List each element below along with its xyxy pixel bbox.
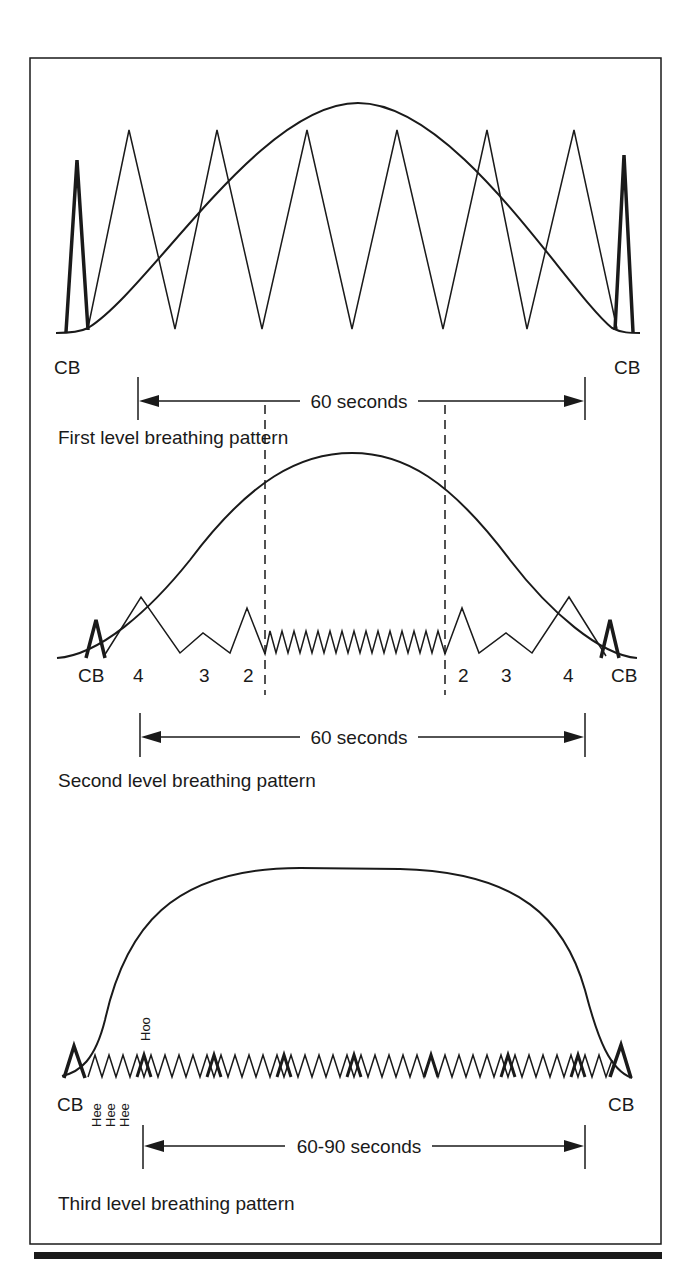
hee-label: Hee xyxy=(117,1103,132,1127)
hoo-label: Hoo xyxy=(138,1017,153,1041)
arrowhead-left xyxy=(144,1140,164,1152)
phase-label: 2 xyxy=(458,665,469,686)
phase-label: 4 xyxy=(133,665,144,686)
breathing-patterns-figure: CB CB 60 seconds First level breathing p… xyxy=(0,0,691,1267)
panel-third-level: Hoo CB CB Hee Hee Hee 60-90 seconds Thir… xyxy=(57,868,634,1214)
breathing-wave xyxy=(88,130,617,329)
duration-label: 60-90 seconds xyxy=(297,1136,422,1157)
panel-caption: First level breathing pattern xyxy=(58,427,288,448)
panel-caption: Third level breathing pattern xyxy=(58,1193,295,1214)
contraction-curve xyxy=(62,868,632,1078)
duration-label: 60 seconds xyxy=(310,391,407,412)
cleansing-breath-spike-left xyxy=(64,1046,85,1078)
panel-caption: Second level breathing pattern xyxy=(58,770,316,791)
cb-label-left: CB xyxy=(57,1094,83,1115)
bottom-rule xyxy=(34,1252,662,1259)
cleansing-breath-spike-right xyxy=(615,155,633,332)
phase-label: CB xyxy=(78,665,104,686)
hee-label: Hee xyxy=(89,1103,104,1127)
cb-label-left: CB xyxy=(54,357,80,378)
arrowhead-right xyxy=(564,1140,584,1152)
phase-label: 4 xyxy=(563,665,574,686)
breathing-wave xyxy=(104,597,606,656)
arrowhead-right xyxy=(564,731,584,743)
phase-label: 3 xyxy=(501,665,512,686)
phase-label: CB xyxy=(611,665,637,686)
contraction-curve xyxy=(57,453,637,658)
duration-label: 60 seconds xyxy=(310,727,407,748)
panel-second-level: CB 4 3 2 2 3 4 CB 60 seconds Second leve… xyxy=(57,405,637,791)
cleansing-breath-spike-right xyxy=(601,620,619,658)
cleansing-breath-spike-left xyxy=(86,620,105,658)
phase-label: 3 xyxy=(199,665,210,686)
cb-label-right: CB xyxy=(608,1094,634,1115)
phase-label: 2 xyxy=(243,665,254,686)
cleansing-breath-spike-left xyxy=(66,160,88,332)
arrowhead-left xyxy=(139,395,159,407)
arrowhead-right xyxy=(564,395,584,407)
hee-label: Hee xyxy=(103,1103,118,1127)
contraction-curve xyxy=(56,103,640,333)
cb-label-right: CB xyxy=(614,357,640,378)
panel-first-level: CB CB 60 seconds First level breathing p… xyxy=(54,103,640,448)
arrowhead-left xyxy=(141,731,161,743)
figure-frame xyxy=(30,58,661,1244)
